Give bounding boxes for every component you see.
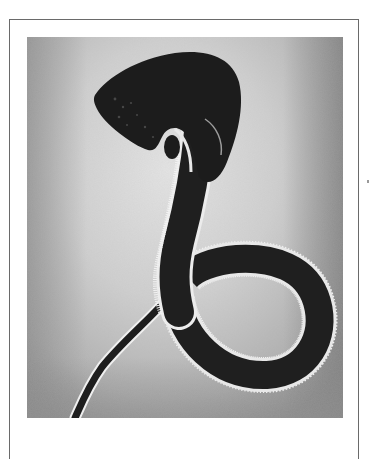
serpent-photo — [27, 37, 343, 418]
scan-speck — [367, 180, 369, 183]
serpent-illustration — [27, 37, 343, 418]
